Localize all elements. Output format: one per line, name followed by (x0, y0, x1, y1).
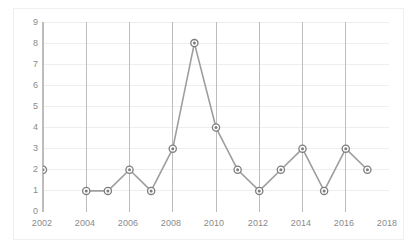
x-tick-label-2002: 2002 (22, 219, 62, 228)
y-tick-label-8: 8 (18, 39, 38, 48)
y-tick-label-7: 7 (18, 60, 38, 69)
y-tick-label-5: 5 (18, 102, 38, 111)
plot-svg (43, 22, 389, 212)
y-tick-label-3: 3 (18, 144, 38, 153)
x-tick-label-2004: 2004 (65, 219, 105, 228)
vertical-gridlines (43, 22, 389, 212)
x-tick-label-2014: 2014 (281, 219, 321, 228)
series-markers (43, 40, 371, 195)
y-tick-label-1: 1 (18, 186, 38, 195)
x-tick-label-2016: 2016 (324, 219, 364, 228)
y-tick-label-9: 9 (18, 18, 38, 27)
y-tick-label-0: 0 (18, 207, 38, 216)
line-chart: 9 8 7 6 5 4 3 2 1 0 2002 2004 2006 2008 … (0, 0, 416, 248)
y-tick-label-6: 6 (18, 81, 38, 90)
plot-area (42, 22, 388, 212)
y-tick-label-2: 2 (18, 165, 38, 174)
x-tick-label-2012: 2012 (238, 219, 278, 228)
x-tick-label-2008: 2008 (151, 219, 191, 228)
x-tick-label-2018: 2018 (367, 219, 407, 228)
x-tick-label-2006: 2006 (108, 219, 148, 228)
y-tick-label-4: 4 (18, 123, 38, 132)
x-tick-label-2010: 2010 (194, 219, 234, 228)
